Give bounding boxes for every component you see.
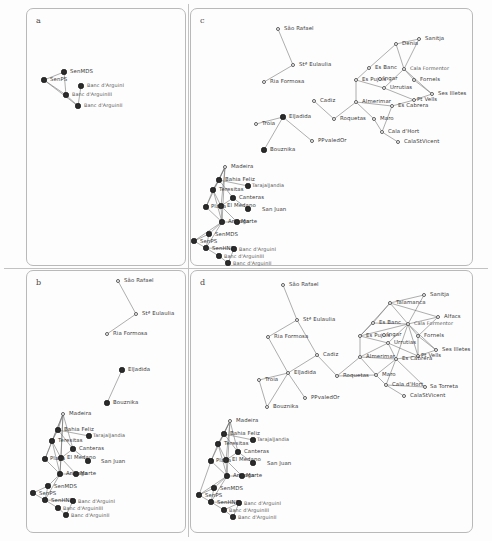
node-label-d-Ingar: Ingar <box>387 331 401 337</box>
node-c-BahiaFeliz[interactable] <box>216 177 221 182</box>
node-c-SanJuan[interactable] <box>245 206 250 211</box>
node-label-c-EsCabrera: Es Cabrera <box>398 102 428 108</box>
node-b-BancArguinII[interactable] <box>63 512 68 517</box>
node-label-a-SenPS: SenPS <box>50 76 67 82</box>
node-label-c-BancArguinIII: Banc d'ArguinIII <box>224 253 264 259</box>
node-label-c-Madeira: Madeira <box>231 163 253 169</box>
node-b-ElJadida[interactable] <box>119 367 124 372</box>
node-b-Bouznika[interactable] <box>104 400 109 405</box>
node-c-BancArguinIII[interactable] <box>216 253 221 258</box>
node-b-SenHND[interactable] <box>42 497 47 502</box>
node-b-BancArguinI[interactable] <box>70 498 75 503</box>
node-d-SenPS[interactable] <box>196 492 201 497</box>
node-label-a-BancArguinI: Banc d'ArguinI <box>87 82 124 88</box>
node-d-Arinaga[interactable] <box>224 473 229 478</box>
node-label-d-Madeira: Madeira <box>236 417 258 423</box>
node-label-b-BahiaFeliz: Bahia Feliz <box>64 426 94 432</box>
node-c-Bouznika[interactable] <box>261 147 266 152</box>
node-c-Playa[interactable] <box>203 204 208 209</box>
node-c-Teresitas[interactable] <box>210 187 215 192</box>
node-label-d-Cadiz: Cadiz <box>323 351 338 357</box>
node-label-b-SenPS: SenPS <box>39 490 56 496</box>
node-c-ElJadida[interactable] <box>280 114 285 119</box>
node-a-BancArguinI[interactable] <box>78 83 83 88</box>
node-d-Marte[interactable] <box>239 473 244 478</box>
node-c-Arinaga[interactable] <box>219 219 224 224</box>
node-label-d-EsCabrera: Es Cabrera <box>402 355 432 361</box>
node-label-c-Marte: Marte <box>241 218 257 224</box>
node-label-d-Teresitas: Teresitas <box>224 440 249 446</box>
node-label-c-Roquetas: Roquetas <box>340 115 366 121</box>
node-b-Marte[interactable] <box>73 471 78 476</box>
node-b-Arinaga[interactable] <box>57 471 62 476</box>
node-d-TarajalJandia[interactable] <box>250 437 255 442</box>
node-label-c-Urrutias: Urrutias <box>390 84 412 90</box>
node-label-c-Troia: Troia <box>262 120 275 126</box>
node-label-c-StaEulaulia: Stª Eulaulia <box>299 61 331 67</box>
node-d-SenMDS[interactable] <box>211 485 216 490</box>
node-label-d-BancArguinIII: Banc d'ArguinIII <box>229 507 269 513</box>
node-label-b-Bouznika: Bouznika <box>113 399 138 405</box>
node-label-b-BancArguinI: Banc d'ArguinI <box>78 498 115 504</box>
figure-canvas: abcd SenMDSSenPSBanc d'ArguinIBanc d'Arg… <box>0 0 492 541</box>
node-label-c-Fornels: Fornels <box>420 76 440 82</box>
node-c-Marte[interactable] <box>234 219 239 224</box>
panel-label-d: d <box>200 278 205 287</box>
node-b-SenPS[interactable] <box>30 490 35 495</box>
node-label-c-Teresitas: Teresitas <box>219 186 244 192</box>
node-a-SenMDS[interactable] <box>61 69 66 74</box>
node-label-c-Canteras: Canteras <box>239 194 264 200</box>
node-c-SenMDS[interactable] <box>206 231 211 236</box>
node-a-BancArguinIII[interactable] <box>63 92 68 97</box>
node-d-BahiaFeliz[interactable] <box>221 431 226 436</box>
node-label-c-Sanitja: Sanitja <box>425 35 444 41</box>
node-label-d-Canteras: Canteras <box>244 448 269 454</box>
node-label-d-Almerimar: Almerimar <box>366 353 395 359</box>
node-label-d-PPvaledOr: PPvaledOr <box>311 394 340 400</box>
node-d-SenHND[interactable] <box>208 499 213 504</box>
node-label-d-BancArguinI: Banc d'ArguinI <box>244 500 281 506</box>
node-label-d-RiaFormosa: Ria Formosa <box>274 333 308 339</box>
node-c-TarajalJandia[interactable] <box>245 183 250 188</box>
node-d-BancArguinIII[interactable] <box>221 507 226 512</box>
node-label-c-SesIlletes: Ses Illetes <box>438 90 467 96</box>
node-b-Teresitas[interactable] <box>49 438 54 443</box>
node-label-b-StaEulaulia: Stª Eulaulia <box>142 310 174 316</box>
node-b-Canteras[interactable] <box>70 446 75 451</box>
node-b-SenMDS[interactable] <box>45 483 50 488</box>
node-d-SanJuan[interactable] <box>250 460 255 465</box>
node-label-d-Roquetas: Roquetas <box>343 372 369 378</box>
node-c-SenHND[interactable] <box>203 245 208 250</box>
node-d-Playa[interactable] <box>208 458 213 463</box>
node-d-BancArguinI[interactable] <box>236 500 241 505</box>
node-d-BancArguinII[interactable] <box>230 514 235 519</box>
node-c-Canteras[interactable] <box>230 195 235 200</box>
node-b-Playa[interactable] <box>42 456 47 461</box>
node-label-c-TarajalJandia: TarajalJandia <box>252 182 284 188</box>
node-label-d-SenPS: SenPS <box>205 492 222 498</box>
node-d-Teresitas[interactable] <box>215 441 220 446</box>
node-c-SenPS[interactable] <box>191 238 196 243</box>
node-label-c-Bouznika: Bouznika <box>270 146 295 152</box>
node-label-b-Canteras: Canteras <box>79 445 104 451</box>
node-label-d-ElMedano: El Medano <box>232 456 261 462</box>
node-label-d-StaEulaulia: Stª Eulaulia <box>303 316 335 322</box>
node-c-BancArguinII[interactable] <box>225 260 230 265</box>
node-b-TarajalJandia[interactable] <box>86 433 91 438</box>
node-a-BancArguinII[interactable] <box>75 103 80 108</box>
node-a-SenPS[interactable] <box>41 77 46 82</box>
node-b-BancArguinIII[interactable] <box>55 505 60 510</box>
node-c-BancArguinI[interactable] <box>231 246 236 251</box>
node-label-d-Urrutias: Urrutias <box>394 339 416 345</box>
node-b-SanJuan[interactable] <box>85 458 90 463</box>
node-d-Canteras[interactable] <box>235 449 240 454</box>
node-label-b-ElJadida: ElJadida <box>128 366 150 372</box>
node-label-d-CalaFormentor: Cala Formentor <box>414 320 453 326</box>
node-label-c-BahiaFeliz: Bahia Feliz <box>225 176 255 182</box>
node-label-a-BancArguinII: Banc d'ArguinII <box>84 102 122 108</box>
node-label-c-EsBanc: Es Banc <box>375 64 397 70</box>
node-b-BahiaFeliz[interactable] <box>55 427 60 432</box>
node-label-c-Cadiz: Cadiz <box>320 97 335 103</box>
node-label-c-SanJuan: San Juan <box>262 206 286 212</box>
node-label-d-Playa: Playa <box>216 457 231 463</box>
